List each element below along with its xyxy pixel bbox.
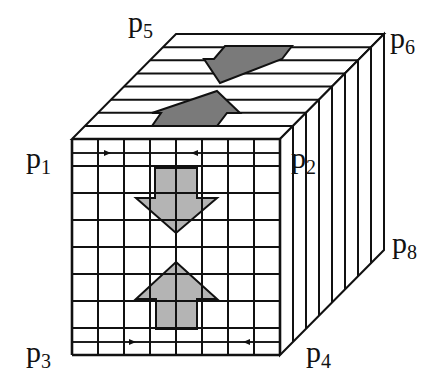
label-p6: p6 (390, 21, 415, 58)
cube-diagram: p1p2p3p4p5p6p8 (0, 0, 443, 381)
label-p8: p8 (392, 226, 417, 263)
label-p1: p1 (26, 141, 51, 178)
label-p4: p4 (306, 335, 331, 372)
label-p3: p3 (26, 335, 51, 372)
label-p5: p5 (128, 5, 153, 42)
